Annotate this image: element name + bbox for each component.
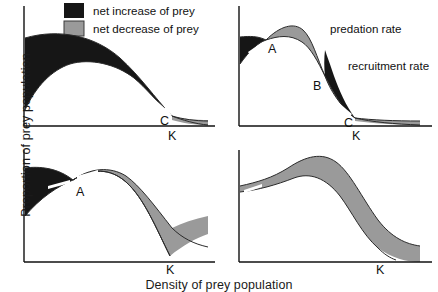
equilibrium-label-b-top-right: B <box>313 79 321 93</box>
panel-bottom-left: A K <box>24 150 215 277</box>
trajectory-arrow-right-bottom-left <box>77 170 98 179</box>
panel-top-right: A B C K predation rate recruitment rate <box>239 6 432 143</box>
x-axis-label: Density of prey population <box>0 278 438 292</box>
legend: net increase of prey net decrease of pre… <box>64 3 199 36</box>
net-decrease-area-bottom-left <box>73 170 208 256</box>
panel-bottom-right: K <box>239 150 432 277</box>
legend-label-net-decrease: net decrease of prey <box>93 22 199 35</box>
k-label-top-right: K <box>352 129 361 143</box>
equilibrium-label-a-top-right: A <box>268 42 277 56</box>
equilibrium-label-c-top-right: C <box>344 116 353 130</box>
k-label-bottom-right: K <box>376 263 385 277</box>
legend-swatch-net-decrease <box>64 21 84 36</box>
equilibrium-label-a-bottom-left: A <box>76 185 85 199</box>
k-label-top-left: K <box>168 129 177 143</box>
net-increase-area-top-left <box>25 34 172 116</box>
legend-label-net-increase: net increase of prey <box>93 4 195 17</box>
recruitment-rate-label: recruitment rate <box>348 59 429 72</box>
net-decrease-area-bottom-right <box>240 156 420 262</box>
k-label-bottom-left: K <box>166 263 175 277</box>
y-axis-label: Proportion of prey population <box>19 25 33 245</box>
legend-swatch-net-increase <box>64 3 84 18</box>
predation-rate-label: predation rate <box>330 22 402 35</box>
